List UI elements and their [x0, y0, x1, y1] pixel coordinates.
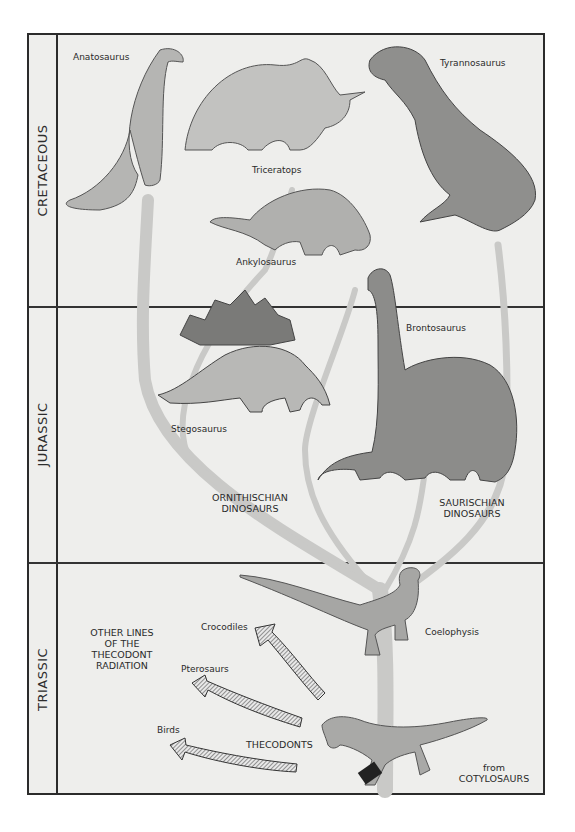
- label-thecodonts: THECODONTS: [246, 739, 313, 750]
- brontosaurus-illustration: [318, 269, 517, 482]
- label-crocodiles: Crocodiles: [201, 622, 248, 632]
- label-coelophysis: Coelophysis: [425, 627, 479, 637]
- label-triceratops: Triceratops: [252, 165, 302, 175]
- arrow-pterosaurs: [192, 675, 302, 727]
- label-other-thecodont-lines: OTHER LINES OF THE THECODONT RADIATION: [82, 627, 162, 671]
- label-ornithischian-dinosaurs: ORNITHISCHIAN DINOSAURS: [200, 492, 300, 514]
- label-anatosaurus: Anatosaurus: [73, 52, 129, 62]
- tyrannosaurus-illustration: [369, 47, 536, 231]
- label-brontosaurus: Brontosaurus: [406, 323, 466, 333]
- label-saurischian-dinosaurs: SAURISCHIAN DINOSAURS: [432, 497, 512, 519]
- label-stegosaurus: Stegosaurus: [171, 424, 227, 434]
- stegosaurus-illustration: [158, 290, 330, 412]
- anatosaurus-illustration: [66, 49, 183, 210]
- label-birds: Birds: [157, 725, 180, 735]
- ankylosaurus-illustration: [210, 189, 370, 255]
- label-from-cotylosaurs: from COTYLOSAURS: [454, 762, 534, 784]
- label-ankylosaurus: Ankylosaurus: [236, 257, 296, 267]
- lineage-branches: [143, 190, 507, 790]
- arrow-crocodiles: [255, 624, 325, 700]
- label-tyrannosaurus: Tyrannosaurus: [440, 58, 506, 68]
- evolution-illustration: [0, 0, 575, 832]
- triceratops-illustration: [185, 59, 365, 150]
- label-pterosaurs: Pterosaurs: [181, 664, 229, 674]
